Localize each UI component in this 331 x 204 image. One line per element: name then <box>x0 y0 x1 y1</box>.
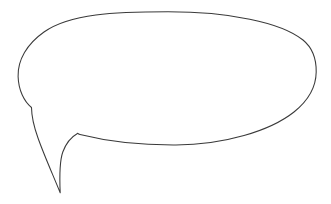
drawing-canvas <box>0 0 331 204</box>
speech-balloon-illustration <box>0 0 331 204</box>
